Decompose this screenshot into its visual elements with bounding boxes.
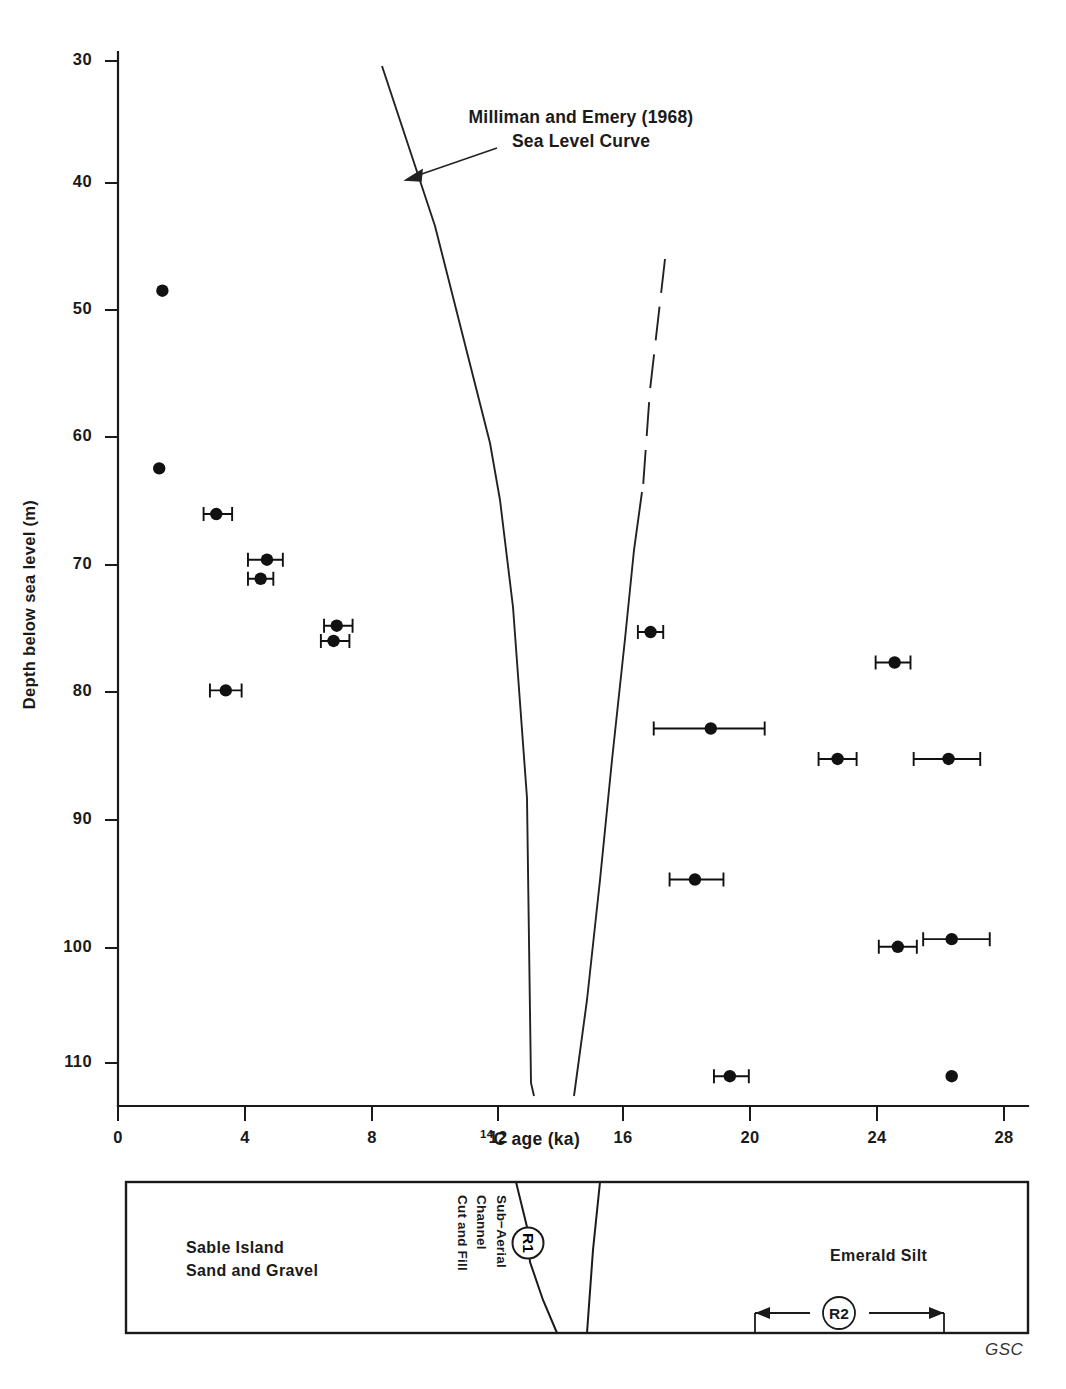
sea-level-curve-right-limb-dashed [643, 259, 665, 487]
data-point-marker [888, 656, 900, 668]
data-point [248, 572, 273, 586]
data-point-marker [153, 462, 165, 474]
gsc-credit: GSC [985, 1340, 1023, 1360]
data-point [876, 656, 911, 670]
data-point-marker [331, 620, 343, 632]
x-tick-label-20: 20 [730, 1128, 770, 1147]
data-point [321, 634, 350, 648]
data-point [638, 625, 663, 639]
x-tick-label-24: 24 [857, 1128, 897, 1147]
data-point [946, 1070, 958, 1082]
data-point [914, 752, 981, 766]
x-tick-label-8: 8 [352, 1128, 392, 1147]
y-tick-label-90: 90 [48, 809, 92, 828]
data-point-marker [946, 1070, 958, 1082]
y-tick-label-110: 110 [40, 1052, 92, 1071]
y-tick-label-50: 50 [48, 299, 92, 318]
x-tick-label-0: 0 [98, 1128, 138, 1147]
data-point-marker [220, 684, 232, 696]
data-points-layer [153, 284, 990, 1083]
data-point-marker [254, 573, 266, 585]
annotation-line-2: Sea Level Curve [436, 129, 726, 153]
channel-right-boundary [587, 1182, 600, 1333]
unit-label-sable-island: Sable Island Sand and Gravel [186, 1237, 318, 1282]
data-point-marker [705, 722, 717, 734]
data-point-marker [644, 626, 656, 638]
data-point [204, 507, 233, 521]
R2-arrowhead-left [755, 1307, 770, 1319]
x-axis-title-isotope: 14 [480, 1128, 493, 1140]
y-tick-label-60: 60 [48, 426, 92, 445]
sea-level-curve-annotation: Milliman and Emery (1968) Sea Level Curv… [436, 105, 726, 153]
data-point-marker [327, 635, 339, 647]
data-point [210, 683, 242, 697]
data-point-marker [946, 933, 958, 945]
data-point [819, 752, 857, 766]
y-tick-label-30: 30 [48, 50, 92, 69]
sea-level-curve [382, 66, 665, 1096]
x-axis-ticks [118, 1106, 1004, 1120]
sea-level-curve-right-limb-solid [574, 492, 642, 1096]
data-point [923, 932, 990, 946]
y-axis-ticks [106, 61, 118, 1063]
data-point-marker [261, 554, 273, 566]
reflector-R1-marker: R1 [513, 1228, 544, 1259]
reflector-R1-label: R1 [520, 1233, 537, 1253]
data-point [324, 619, 353, 633]
y-axis-title: Depth below sea level (m) [20, 455, 39, 755]
x-tick-label-28: 28 [984, 1128, 1024, 1147]
y-tick-label-100: 100 [40, 937, 92, 956]
data-point [879, 940, 917, 954]
y-tick-label-70: 70 [48, 554, 92, 573]
data-point [670, 873, 724, 887]
x-tick-label-4: 4 [225, 1128, 265, 1147]
y-tick-label-80: 80 [48, 681, 92, 700]
x-axis-title-rest: C age (ka) [493, 1129, 580, 1149]
data-point-marker [831, 753, 843, 765]
reflector-R2-label: R2 [829, 1305, 849, 1322]
figure-root: R1 R2 [0, 0, 1066, 1389]
data-point-marker [689, 873, 701, 885]
data-point-marker [724, 1070, 736, 1082]
data-point [248, 553, 283, 567]
unit-label-sub-aerial-channel: Sub−Aerial Channel Cut and Fill [452, 1195, 511, 1315]
data-point-marker [210, 508, 222, 520]
data-point [156, 284, 168, 296]
unit-label-emerald-silt: Emerald Silt [830, 1245, 927, 1268]
data-point-marker [942, 753, 954, 765]
R2-arrowhead-right [929, 1307, 944, 1319]
y-tick-label-40: 40 [48, 172, 92, 191]
data-point [714, 1069, 749, 1083]
plot-axes [106, 52, 1028, 1120]
reflector-R2-range: R2 [755, 1297, 944, 1333]
annotation-line-1: Milliman and Emery (1968) [436, 105, 726, 129]
data-point [153, 462, 165, 474]
data-point-marker [156, 284, 168, 296]
data-point-marker [892, 941, 904, 953]
x-axis-title: 14C age (ka) [400, 1128, 660, 1150]
data-point [654, 721, 765, 735]
sea-level-curve-left-limb [382, 66, 534, 1096]
